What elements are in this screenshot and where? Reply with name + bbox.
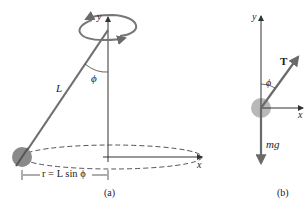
angle-label-b: ϕ	[266, 78, 271, 88]
length-label: L	[56, 83, 62, 94]
x-axis-label-a: x	[197, 160, 201, 170]
y-axis-label-a: y	[97, 12, 101, 22]
string-rod	[22, 30, 108, 158]
tension-label: T⃗	[280, 56, 296, 67]
angle-arc-a	[85, 64, 108, 72]
weight-label: mg⃗	[266, 139, 288, 150]
rotation-arrow-back	[86, 15, 136, 36]
caption-a: (a)	[104, 188, 115, 198]
caption-b: (b)	[277, 188, 289, 198]
x-axis-label-b: x	[298, 110, 302, 120]
figure-a	[12, 15, 202, 180]
radius-label: r = L sin ϕ	[42, 169, 86, 180]
angle-label-a: ϕ	[91, 73, 97, 84]
y-axis-label-b: y	[252, 12, 256, 22]
